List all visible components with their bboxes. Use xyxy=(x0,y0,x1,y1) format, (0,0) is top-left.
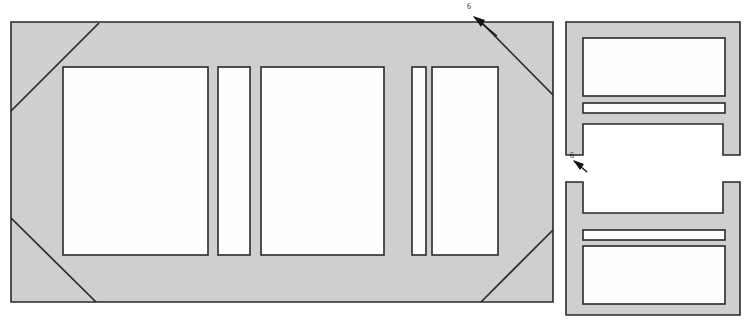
callout-lower-label: 6 xyxy=(570,151,574,160)
upper-side-elevation-view xyxy=(566,22,740,155)
lower-window-aperture xyxy=(583,246,725,304)
technical-drawing-figure: 6 6 xyxy=(0,0,755,326)
large-right-aperture xyxy=(432,67,498,255)
narrow-slot-right xyxy=(412,67,426,255)
large-center-aperture xyxy=(261,67,384,255)
upper-horizontal-slot xyxy=(583,103,725,113)
lower-side-elevation-view xyxy=(566,182,740,315)
upper-window-aperture xyxy=(583,38,725,96)
lower-horizontal-slot xyxy=(583,230,725,240)
drawing-canvas: 6 6 xyxy=(0,0,755,326)
large-left-aperture xyxy=(63,67,208,255)
narrow-slot-left xyxy=(218,67,250,255)
main-front-view xyxy=(11,22,553,302)
callout-upper-label: 6 xyxy=(467,2,471,11)
